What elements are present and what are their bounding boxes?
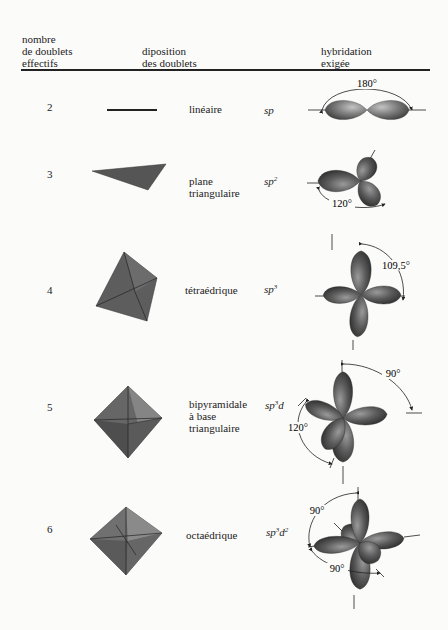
row-6-count: 6 xyxy=(47,523,53,535)
row-3-geometry: plane triangulaire xyxy=(189,175,240,199)
row-4-hybridization: sp3 xyxy=(264,283,277,295)
hyb-sup: 2 xyxy=(285,526,289,534)
row-3-hybridization: sp2 xyxy=(264,175,277,187)
sp3-orbital-icon: 109,5° xyxy=(315,232,435,352)
row-2-hybridization: sp xyxy=(264,104,274,116)
row-4-geometry: tétraédrique xyxy=(185,284,238,296)
angle-label: 90° xyxy=(310,505,325,516)
angle-label: 90° xyxy=(330,563,345,574)
header-line: hybridation xyxy=(321,45,372,57)
header-line: effectifs xyxy=(22,57,72,69)
bipyramid-shape-icon xyxy=(92,384,164,460)
header-line: nombre xyxy=(22,33,72,45)
hyb-d: d xyxy=(278,399,284,411)
header-hybridization: hybridation exigée xyxy=(321,45,372,69)
geometry-line: triangulaire xyxy=(189,422,247,434)
hyb-sup: 2 xyxy=(274,175,278,183)
sp3d2-orbital-icon: 90° 90° xyxy=(292,485,442,615)
geometry-line: triangulaire xyxy=(189,187,240,199)
geometry-line: octaédrique xyxy=(186,529,237,541)
geometry-line: bipyramidale xyxy=(189,398,247,410)
sp3d-orbital-icon: 90° 120° xyxy=(296,358,436,488)
hyb-base: sp xyxy=(266,526,276,538)
sp2-orbital-icon: 120° xyxy=(305,148,425,218)
geometry-line: plane xyxy=(189,175,240,187)
tetrahedron-shape-icon xyxy=(95,250,165,325)
row-6-geometry: octaédrique xyxy=(186,529,237,541)
hyb-sup: 3 xyxy=(274,283,278,291)
header-disposition: diposition des doublets xyxy=(142,45,197,69)
sp-orbital-icon: 180° xyxy=(300,72,440,132)
geometry-line: tétraédrique xyxy=(185,284,238,296)
header-line: des doublets xyxy=(142,57,197,69)
header-rule xyxy=(21,69,430,71)
header-effective-pairs: nombre de doublets effectifs xyxy=(22,33,72,69)
angle-label: 120° xyxy=(332,198,352,209)
angle-label: 180° xyxy=(357,78,377,89)
header-line: de doublets xyxy=(22,45,72,57)
triangle-shape-icon xyxy=(90,160,170,195)
angle-label: 109,5° xyxy=(382,260,410,271)
row-4-count: 4 xyxy=(47,284,53,296)
geometry-line: à base xyxy=(189,410,247,422)
row-5-geometry: bipyramidale à base triangulaire xyxy=(189,398,247,434)
row-6-hybridization: sp3d2 xyxy=(266,526,288,538)
row-2-count: 2 xyxy=(47,101,53,113)
hyb-base: sp xyxy=(265,399,275,411)
header-line: exigée xyxy=(321,57,372,69)
geometry-line: linéaire xyxy=(189,103,222,115)
header-line: diposition xyxy=(142,45,197,57)
row-2-geometry: linéaire xyxy=(189,103,222,115)
linear-line-icon xyxy=(107,109,157,111)
octahedron-shape-icon xyxy=(88,505,164,577)
row-5-hybridization: sp3d xyxy=(265,399,284,411)
row-5-count: 5 xyxy=(47,401,53,413)
hyb-base: sp xyxy=(264,104,274,116)
angle-label: 90° xyxy=(386,368,401,379)
angle-label: 120° xyxy=(288,422,308,433)
hyb-base: sp xyxy=(264,175,274,187)
hyb-base: sp xyxy=(264,283,274,295)
row-3-count: 3 xyxy=(47,168,53,180)
